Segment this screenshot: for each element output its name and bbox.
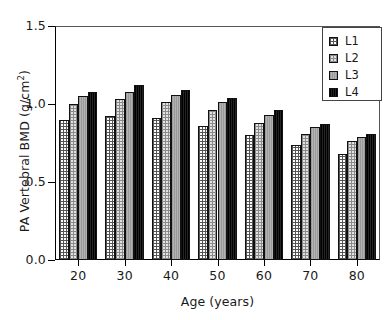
y-axis-tick-mark (48, 104, 55, 105)
x-axis-title: Age (years) (55, 294, 380, 309)
bar-l3-age-70 (310, 127, 320, 260)
y-axis-title: PA Vertebral BMD (g/cm2) (16, 31, 32, 271)
bar-l4-age-60 (274, 110, 284, 260)
legend: L1L2L3L4 (322, 27, 382, 101)
legend-item-l3: L3 (329, 69, 359, 81)
bar-l2-age-50 (208, 110, 218, 260)
y-axis-title-superscript: 2 (16, 75, 26, 81)
bar-l1-age-30 (105, 116, 115, 260)
bar-l4-age-70 (320, 124, 330, 260)
bar-l4-age-80 (366, 134, 376, 260)
legend-label: L3 (345, 68, 359, 82)
bar-l1-age-50 (198, 126, 208, 260)
x-axis-tick-label: 80 (334, 268, 380, 283)
x-axis-tick-mark (125, 260, 126, 266)
bar-l4-age-20 (88, 92, 98, 260)
legend-item-l2: L2 (329, 52, 359, 64)
bar-l3-age-30 (125, 92, 135, 260)
legend-item-l1: L1 (329, 35, 359, 47)
legend-label: L4 (345, 85, 359, 99)
bar-l1-age-70 (291, 145, 301, 260)
y-axis-tick-mark (48, 260, 55, 261)
bar-l4-age-30 (134, 85, 144, 260)
legend-item-l4: L4 (329, 86, 359, 98)
x-axis-tick-label: 30 (102, 268, 148, 283)
x-axis-tick-mark (218, 260, 219, 266)
bar-l3-age-20 (78, 96, 88, 260)
bar-l1-age-20 (59, 120, 69, 260)
bar-l2-age-80 (347, 141, 357, 260)
legend-swatch-l1 (329, 37, 338, 46)
bar-l1-age-80 (338, 154, 348, 260)
bar-l2-age-20 (69, 104, 79, 260)
x-axis-tick-mark (357, 260, 358, 266)
x-axis-tick-label: 50 (195, 268, 241, 283)
y-axis-tick-mark (48, 182, 55, 183)
x-axis-tick-label: 40 (148, 268, 194, 283)
bar-l2-age-40 (161, 102, 171, 260)
x-axis-tick-mark (310, 260, 311, 266)
bar-l1-age-40 (152, 118, 162, 260)
bar-l3-age-80 (357, 137, 367, 260)
x-axis-tick-mark (264, 260, 265, 266)
x-axis-tick-mark (78, 260, 79, 266)
x-axis-tick-label: 60 (241, 268, 287, 283)
bar-l4-age-50 (227, 98, 237, 260)
legend-label: L2 (345, 51, 359, 65)
bar-l3-age-50 (218, 102, 228, 260)
bar-l2-age-70 (301, 134, 311, 260)
bar-l1-age-60 (245, 135, 255, 260)
bar-l2-age-60 (254, 123, 264, 260)
bar-l4-age-40 (181, 90, 191, 260)
bar-l2-age-30 (115, 99, 125, 260)
bar-l3-age-40 (171, 95, 181, 260)
legend-swatch-l3 (329, 71, 338, 80)
legend-swatch-l2 (329, 54, 338, 63)
bar-l3-age-60 (264, 115, 274, 260)
bar-chart-figure: 0.00.51.01.5 20304050607080 PA Vertebral… (0, 0, 390, 320)
y-axis-title-text: PA Vertebral BMD (g/cm (17, 80, 32, 232)
y-axis-tick-mark (48, 26, 55, 27)
x-axis-tick-label: 20 (55, 268, 101, 283)
x-axis-tick-mark (171, 260, 172, 266)
legend-label: L1 (345, 34, 359, 48)
x-axis-tick-label: 70 (287, 268, 333, 283)
y-axis-title-tail: ) (17, 70, 32, 75)
legend-swatch-l4 (329, 88, 338, 97)
